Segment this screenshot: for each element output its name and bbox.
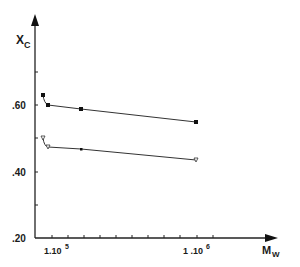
x-axis-title-sub: W bbox=[272, 250, 280, 259]
y-axis-title-sub: C bbox=[24, 40, 31, 50]
chart-canvas: .60 .40 .20 X C 1.10 5 1 .10 6 M W bbox=[0, 0, 300, 267]
data-point bbox=[80, 148, 83, 151]
y-axis-title: X bbox=[16, 33, 24, 47]
x-tick-label-1e6: 1 .10 bbox=[183, 246, 203, 256]
data-point bbox=[46, 145, 50, 149]
data-point bbox=[194, 158, 198, 162]
y-tick-label-60: .60 bbox=[12, 100, 26, 111]
data-point bbox=[79, 107, 83, 111]
data-point bbox=[194, 120, 198, 124]
y-tick-label-20: .20 bbox=[12, 233, 26, 244]
x-tick-label-1e5-sup: 5 bbox=[65, 243, 69, 250]
x-tick-label-1e6-sup: 6 bbox=[206, 243, 210, 250]
x-axis-arrow-icon bbox=[265, 234, 278, 242]
x-axis-title: M bbox=[262, 244, 271, 256]
series-open-triangles bbox=[41, 136, 198, 162]
data-point bbox=[46, 103, 50, 107]
data-point bbox=[41, 136, 45, 140]
x-tick-label-1e5: 1.10 bbox=[44, 246, 62, 256]
data-point bbox=[41, 93, 45, 97]
y-axis-arrow-icon bbox=[31, 14, 39, 26]
y-tick-label-40: .40 bbox=[12, 167, 26, 178]
series-filled-squares bbox=[41, 93, 198, 124]
